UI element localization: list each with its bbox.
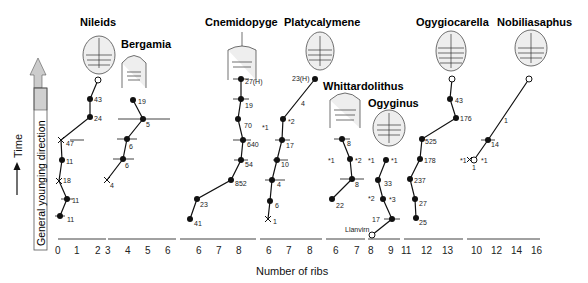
title-nobiliasaphus: Nobiliasaphus [497, 16, 572, 28]
label: 6 [125, 162, 129, 169]
label: 525 [425, 138, 437, 145]
label: 1 [504, 117, 508, 124]
label: 33 [384, 180, 392, 187]
time-label: Time [12, 134, 24, 158]
time-arrow-icon [14, 162, 21, 170]
series-whittardolithus [332, 139, 352, 199]
title-ogyginus: Ogyginus [368, 97, 419, 109]
label: 237 [414, 177, 426, 184]
label: 11 [66, 158, 73, 165]
ogygiocarella-trilobite-icon [436, 31, 466, 71]
younging-direction-bar: General younging direction [30, 58, 47, 250]
tick: 11 [401, 245, 412, 256]
tick: 6 [196, 245, 202, 256]
label: 27(H) [245, 78, 263, 86]
label: 5 [146, 121, 150, 128]
tick: 6 [266, 245, 272, 256]
tick: 12 [421, 245, 433, 256]
label: 17 [372, 216, 380, 223]
label: 22 [336, 202, 344, 209]
tick: 7 [354, 245, 360, 256]
tick: 10 [471, 245, 483, 256]
llanvirn-label: Llanvirn [345, 226, 370, 233]
label: 1 [472, 164, 476, 171]
label: 10 [281, 161, 289, 168]
label: 18 [63, 177, 71, 184]
title-nileids: Nileids [80, 16, 116, 28]
label: 6 [129, 143, 133, 150]
label: 1 [273, 218, 277, 225]
label: 19 [138, 98, 146, 105]
series-nobiliasaphus [474, 79, 529, 160]
tick: 5 [145, 245, 151, 256]
label: 4 [301, 100, 305, 107]
tick: 4 [125, 245, 131, 256]
tick: 3 [105, 245, 111, 256]
label: *1 [262, 124, 269, 131]
label: 43 [94, 96, 102, 103]
title-bergamia: Bergamia [121, 38, 172, 50]
label: *1 [481, 157, 488, 164]
label: 852 [235, 180, 247, 187]
tick: 6 [333, 245, 339, 256]
label: 23 [200, 201, 208, 208]
x-axis-title: Number of ribs [256, 265, 329, 277]
label: *1 [391, 157, 398, 164]
title-ogygiocarella: Ogygiocarella [416, 16, 490, 28]
tick: 8 [236, 245, 242, 256]
label: 8 [347, 140, 351, 147]
label: 54 [245, 161, 253, 168]
tick: 13 [442, 245, 454, 256]
tick: 12 [491, 245, 503, 256]
label: 14 [491, 141, 499, 148]
label: 47 [66, 140, 74, 147]
tick: 9 [388, 245, 394, 256]
ogyginus-trilobite-icon [373, 110, 405, 146]
label: 11 [72, 197, 79, 204]
nileids-trilobite-icon [83, 36, 115, 74]
title-whittardolithus: Whittardolithus [323, 80, 404, 92]
tick: 1 [74, 245, 80, 256]
label: 640 [247, 141, 259, 148]
label: 70 [244, 122, 252, 129]
whittardolithus-trilobite-icon [330, 93, 360, 128]
younging-label: General younging direction [35, 120, 47, 246]
tick: 7 [216, 245, 222, 256]
label: 23(H) [292, 75, 310, 83]
platycalymene-trilobite-icon [306, 32, 334, 70]
label: *1 [328, 157, 335, 164]
tick: 2 [95, 245, 101, 256]
label: 25 [419, 219, 427, 226]
label: *2 [288, 118, 295, 125]
title-cnemidopyge: Cnemidopyge [205, 16, 278, 28]
tick: 16 [531, 245, 543, 256]
title-platycalymene: Platycalymene [284, 16, 360, 28]
tick: 14 [511, 245, 523, 256]
label: 4 [277, 181, 281, 188]
cnemidopyge-trilobite-icon [228, 32, 256, 80]
label: 11 [67, 216, 74, 223]
label: 4 [110, 182, 114, 189]
label: *2 [355, 157, 362, 164]
label: 43 [455, 97, 463, 104]
label: 24 [94, 115, 102, 122]
time-indicator: Time [12, 134, 24, 195]
label: 17 [286, 142, 294, 149]
label: 19 [245, 102, 253, 109]
nobiliasaphus-trilobite-icon [515, 30, 547, 66]
label: *2 [368, 195, 375, 202]
tick: 8 [368, 245, 374, 256]
label: 176 [460, 115, 472, 122]
label: *3 [389, 196, 396, 203]
tick: 0 [55, 245, 61, 256]
tick: 7 [286, 245, 292, 256]
label: *1 [368, 157, 375, 164]
up-arrow-icon [30, 58, 46, 88]
tick: 6 [165, 245, 171, 256]
label: *1 [460, 157, 467, 164]
label: 6 [275, 202, 279, 209]
label: 41 [194, 220, 202, 227]
series-platycalymene [268, 79, 315, 219]
label: 178 [424, 157, 436, 164]
label: 8 [355, 181, 359, 188]
